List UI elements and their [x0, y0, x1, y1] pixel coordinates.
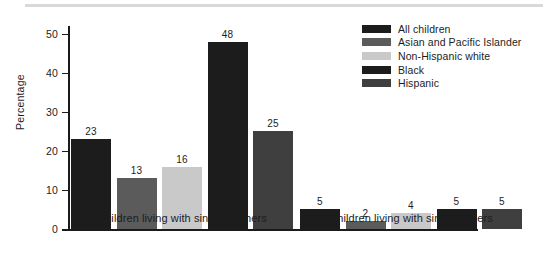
group-label-0: Children living with single mothers	[97, 212, 267, 224]
legend-label: All children	[398, 23, 451, 35]
legend-label: Hispanic	[398, 77, 439, 89]
chart-figure: Percentage 01020304050 231316482552455 C…	[0, 0, 543, 260]
bar-value-label: 16	[176, 154, 188, 165]
bar-value-label: 48	[222, 29, 234, 40]
y-tick-label-20: 20	[46, 145, 58, 157]
legend-swatch-icon	[362, 38, 391, 46]
legend-item-2: Non-Hispanic white	[362, 49, 542, 63]
bar-value-label: 5	[499, 196, 505, 207]
bar-value-label: 25	[267, 118, 279, 129]
legend-label: Black	[398, 64, 424, 76]
legend-label: Asian and Pacific Islander	[398, 36, 521, 48]
bar-value-label: 23	[85, 126, 97, 137]
y-axis-title: Percentage	[14, 74, 26, 130]
y-tick-label-0: 0	[52, 223, 58, 235]
x-axis-line	[68, 229, 478, 231]
legend-item-1: Asian and Pacific Islander	[362, 36, 542, 50]
legend: All childrenAsian and Pacific IslanderNo…	[362, 22, 542, 90]
bar-value-label: 5	[317, 196, 323, 207]
y-tick-label-40: 40	[46, 67, 58, 79]
bar-value-label: 13	[131, 165, 143, 176]
y-tick-label-30: 30	[46, 106, 58, 118]
legend-item-0: All children	[362, 22, 542, 36]
bar-value-label: 4	[408, 200, 414, 211]
legend-swatch-icon	[362, 66, 391, 74]
y-tick-label-50: 50	[46, 28, 58, 40]
legend-swatch-icon	[362, 52, 391, 60]
legend-swatch-icon	[362, 79, 391, 87]
bar-value-label: 5	[454, 196, 460, 207]
legend-item-3: Black	[362, 63, 542, 77]
legend-swatch-icon	[362, 25, 391, 33]
y-tick-label-10: 10	[46, 184, 58, 196]
group-label-1: Children living with single fathers	[329, 212, 493, 224]
legend-item-4: Hispanic	[362, 76, 542, 90]
y-tick-0: 0	[62, 229, 69, 231]
legend-label: Non-Hispanic white	[398, 50, 490, 62]
top-divider-rule	[25, 4, 543, 7]
bar-g0-s3: 48	[208, 42, 248, 229]
